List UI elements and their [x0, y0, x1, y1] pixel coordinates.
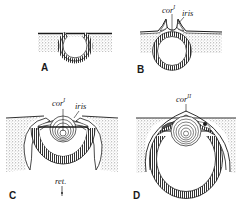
pigment-spot: [203, 122, 207, 126]
label-ret: ret.: [55, 176, 66, 186]
label-iris: iris: [182, 8, 194, 18]
label-iris: iris: [75, 101, 87, 111]
label-cor-ii: corII: [176, 93, 192, 104]
panel-letter-b: B: [137, 64, 144, 75]
panel-a: A: [38, 34, 112, 74]
panel-d: corII D: [133, 93, 236, 201]
panel-letter-d: D: [133, 190, 140, 201]
panel-letter-a: A: [41, 62, 48, 73]
label-cor-i: corI: [162, 4, 176, 15]
eye-development-figure: A corI iris B: [0, 0, 247, 208]
panel-letter-c: C: [9, 190, 16, 201]
lens: [171, 116, 201, 146]
panel-c: corI iris ret. C: [6, 97, 118, 201]
panel-b: corI iris B: [137, 4, 222, 75]
label-cor-i: corI: [52, 97, 66, 108]
